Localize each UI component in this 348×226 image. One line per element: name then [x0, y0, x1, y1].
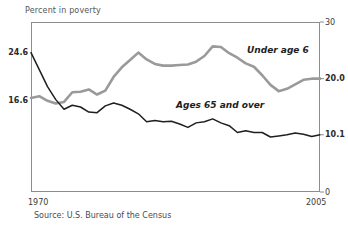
y-axis-left-label-16-6: 16.6 — [6, 96, 28, 105]
chart-axis-title: Percent in poverty — [25, 6, 101, 15]
x-axis-label-end: 2005 — [306, 198, 326, 207]
y-axis-left-label-24-6: 24.6 — [6, 48, 28, 57]
y-axis-right-label-10-1: 10.1 — [325, 130, 345, 139]
y-axis-right-label-30: 30 — [325, 18, 335, 27]
series-annotation-under-age-6: Under age 6 — [247, 45, 309, 55]
right-axis-ticks — [320, 22, 324, 192]
series-annotation-ages-65-and-over: Ages 65 and over — [176, 100, 264, 110]
y-axis-right-label-0: 0 — [325, 188, 330, 197]
poverty-rate-line-chart: Percent in poverty 24.6 16.6 30 20.0 10.… — [0, 0, 348, 226]
x-axis-label-start: 1970 — [28, 198, 48, 207]
chart-source-note: Source: U.S. Bureau of the Census — [34, 211, 171, 220]
y-axis-right-label-20-0: 20.0 — [325, 74, 345, 83]
